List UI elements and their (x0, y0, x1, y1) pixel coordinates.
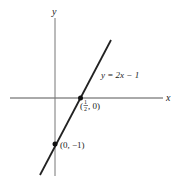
equation-label: y = 2x − 1 (100, 70, 139, 80)
point-a-label: ( 1 2 , 0) (80, 99, 100, 112)
svg-text:2: 2 (84, 106, 87, 112)
svg-text:, 0): , 0) (88, 101, 100, 111)
point-y-intercept (53, 142, 58, 147)
point-x-intercept (78, 96, 83, 101)
graph: x y y = 2x − 1 ( 1 2 , 0) (0, −1) (0, 0, 179, 184)
svg-text:(: ( (80, 101, 83, 111)
line-series (40, 40, 111, 175)
y-axis-label: y (51, 6, 57, 17)
x-axis-label: x (165, 92, 171, 103)
point-b-label: (0, −1) (60, 140, 85, 150)
svg-text:1: 1 (84, 99, 87, 105)
